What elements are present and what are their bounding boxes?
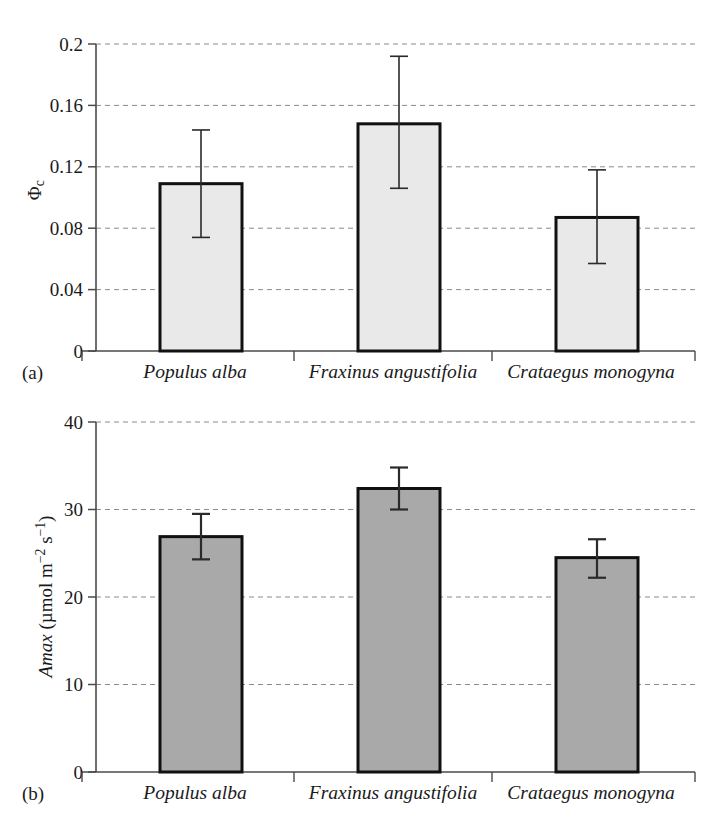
bar[interactable] (556, 558, 638, 772)
y-axis-tick-label: 0.04 (50, 279, 84, 300)
bar[interactable] (358, 489, 440, 773)
y-axis-tick-label: 0.2 (59, 34, 83, 55)
y-axis-tick-label: 40 (64, 412, 83, 433)
x-axis-category-labels-a: Populus alba Fraxinus angustifolia Crata… (96, 361, 690, 383)
panel-label-b: (b) (22, 783, 44, 805)
chart-panel-a: 00.040.080.120.160.2 Φc (a) Populus alba… (0, 0, 725, 410)
chart-panel-b: 010203040 (0, 400, 725, 832)
x-axis-category-labels-b: Populus alba Fraxinus angustifolia Crata… (96, 782, 690, 804)
y-axis-tick-label: 30 (64, 499, 83, 520)
chart-plot-b: 010203040 (0, 400, 725, 832)
category-label: Populus alba (96, 361, 294, 383)
category-label: Populus alba (96, 782, 294, 804)
y-axis-label-a: Φc (24, 150, 48, 230)
category-label: Fraxinus angustifolia (294, 782, 492, 804)
y-axis-tick-label: 20 (64, 587, 83, 608)
y-axis-tick-label: 0.08 (50, 218, 83, 239)
chart-plot-a: 00.040.080.120.160.2 (0, 0, 725, 410)
category-label: Crataegus monogyna (492, 782, 690, 804)
category-label: Fraxinus angustifolia (294, 361, 492, 383)
bar[interactable] (160, 537, 242, 772)
figure-container: 00.040.080.120.160.2 Φc (a) Populus alba… (0, 0, 725, 832)
category-label: Crataegus monogyna (492, 361, 690, 383)
y-axis-tick-label: 0.16 (50, 95, 83, 116)
y-axis-tick-label: 0.12 (50, 156, 83, 177)
y-axis-label-b: Amax (µmol m−2 s−1) (33, 472, 56, 722)
panel-label-a: (a) (22, 362, 43, 384)
y-axis-tick-label: 10 (64, 674, 83, 695)
